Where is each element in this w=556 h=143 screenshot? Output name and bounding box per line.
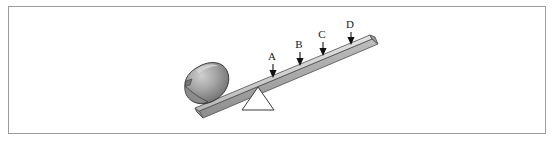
- marker-C[interactable]: C: [318, 28, 326, 56]
- marker-label-C: C: [318, 28, 325, 40]
- lever-diagram: A B C D: [0, 0, 556, 143]
- marker-B[interactable]: B: [295, 38, 303, 66]
- marker-D[interactable]: D: [346, 18, 355, 45]
- marker-label-D: D: [346, 18, 354, 30]
- marker-label-B: B: [295, 38, 302, 50]
- marker-label-A: A: [268, 50, 276, 62]
- figure-container: A B C D: [0, 0, 556, 143]
- marker-A[interactable]: A: [268, 50, 277, 78]
